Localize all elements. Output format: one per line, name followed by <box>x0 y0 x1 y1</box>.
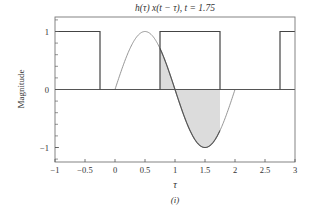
x-tick-label: −1 <box>50 165 59 175</box>
chart-title: h(τ) x(t − τ), t = 1.75 <box>135 3 215 14</box>
chart: h(τ) x(t − τ), t = 1.75 Magnitude τ (i) … <box>0 0 314 215</box>
y-tick-label: 1 <box>45 27 49 37</box>
x-tick-label: 1 <box>173 165 177 175</box>
pulse-2 <box>280 32 295 90</box>
x-tick-label: 2 <box>233 165 237 175</box>
y-axis-label: Magnitude <box>16 70 26 109</box>
x-tick-label: 0.5 <box>140 165 151 175</box>
x-axis-label: τ <box>173 179 177 190</box>
x-tick-label: 3 <box>293 165 297 175</box>
figure-caption: (i) <box>171 195 180 205</box>
product-shaded-area <box>160 48 220 147</box>
y-tick-label: 0 <box>45 85 49 95</box>
x-tick-label: 1.5 <box>200 165 211 175</box>
x-tick-label: 0 <box>113 165 117 175</box>
x-tick-label: −0.5 <box>77 165 92 175</box>
pulse-0 <box>55 32 100 90</box>
x-tick-label: 2.5 <box>260 165 271 175</box>
y-tick-label: −1 <box>40 143 49 153</box>
